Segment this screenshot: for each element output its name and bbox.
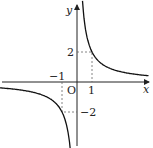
tick-label-y-2: 2 xyxy=(67,46,74,59)
tick-label-y-neg2: −2 xyxy=(80,106,96,119)
y-axis-label: y xyxy=(65,4,73,17)
graph-canvas: y x O 1 −1 2 −2 xyxy=(0,0,153,148)
curve-branch-negative xyxy=(0,88,72,148)
x-axis-label: x xyxy=(143,83,150,96)
origin-label: O xyxy=(67,84,76,97)
tick-label-x-1: 1 xyxy=(88,84,95,97)
curve-branch-positive xyxy=(83,1,149,76)
tick-label-x-neg1: −1 xyxy=(49,70,65,83)
dashed-guide-pos xyxy=(77,52,92,82)
